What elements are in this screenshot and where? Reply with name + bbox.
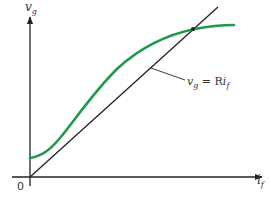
- field-resistance-line: [30, 7, 218, 177]
- diagram-canvas: [0, 0, 271, 197]
- x-axis-label: if: [257, 174, 264, 189]
- intersection-point: [191, 27, 195, 31]
- origin-label: 0: [17, 180, 24, 193]
- y-axis-label: vg: [25, 1, 37, 16]
- resistance-line-label: vg = Rif: [187, 76, 229, 90]
- magnetization-curve: [30, 25, 234, 158]
- leader-line: [151, 68, 185, 80]
